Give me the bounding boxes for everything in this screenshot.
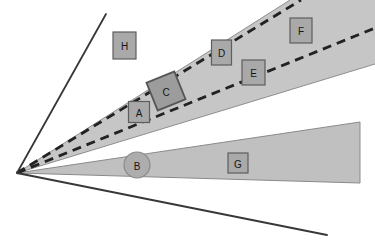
marker-f: F	[290, 18, 312, 43]
marker-a: A	[129, 102, 150, 123]
solid-ray-lower	[17, 173, 327, 235]
marker-g: G	[228, 153, 248, 173]
marker-b: B	[124, 152, 150, 178]
marker-d-label: D	[218, 48, 225, 59]
marker-h: H	[113, 32, 136, 59]
marker-d: D	[212, 40, 232, 65]
marker-e: E	[242, 60, 265, 85]
marker-h-label: H	[121, 41, 128, 52]
marker-f-label: F	[298, 26, 304, 37]
marker-e-label: E	[250, 68, 257, 79]
marker-a-label: A	[136, 108, 143, 119]
ray-fan-diagram: C A D E F G H	[0, 0, 375, 248]
diagram-canvas: C A D E F G H	[0, 0, 375, 248]
marker-g-label: G	[234, 159, 242, 170]
marker-c-label: C	[162, 87, 169, 98]
marker-b-label: B	[134, 161, 141, 172]
